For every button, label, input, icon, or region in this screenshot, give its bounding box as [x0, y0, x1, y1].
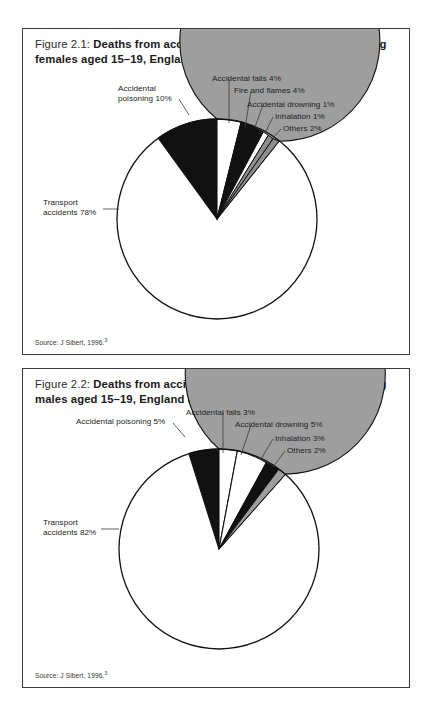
source-text-2-1: Source: J Sibert, 1996. — [35, 339, 104, 346]
source-note-2-1: Source: J Sibert, 1996.3 — [35, 337, 107, 346]
label-accidental-drowning-2-1: Accidental drowning 1% — [247, 100, 334, 110]
label-accidental-drowning-2-2: Accidental drowning 5% — [235, 420, 322, 430]
leader-line-poisoning — [173, 423, 185, 437]
label-fire-and-flames-2-1: Fire and flames 4% — [234, 86, 305, 96]
leader-line-poisoning — [179, 99, 189, 115]
label-transport-accidents-2-1: Transport accidents 78% — [43, 198, 96, 217]
label-inhalation-2-1: Inhalation 1% — [275, 112, 325, 122]
pie-slice-accidental-poisoning — [158, 119, 217, 219]
source-ref-2-2: 3 — [104, 670, 107, 676]
label-transport-accidents-2-2: Transport accidents 82% — [43, 518, 96, 537]
label-others-2-2: Others 2% — [287, 446, 326, 456]
source-text-2-2: Source: J Sibert, 1996. — [35, 672, 104, 679]
figure-panel-2-1: Figure 2.1: Deaths from accidental injur… — [22, 28, 410, 355]
label-accidental-poisoning-2-1: Accidental poisoning 10% — [118, 84, 172, 103]
figure-panel-2-2: Figure 2.2: Deaths from accidental injur… — [22, 368, 410, 688]
source-note-2-2: Source: J Sibert, 1996.3 — [35, 670, 107, 679]
document-page: Figure 2.1: Deaths from accidental injur… — [0, 0, 432, 717]
label-others-2-1: Others 2% — [283, 124, 322, 134]
pie-slice-accidental-poisoning — [189, 449, 219, 549]
label-accidental-falls-2-2: Accidental falls 3% — [186, 408, 255, 418]
label-accidental-poisoning-2-2: Accidental poisoning 5% — [76, 417, 165, 427]
label-inhalation-2-2: Inhalation 3% — [275, 434, 325, 444]
pie-slices-2-1 — [117, 29, 380, 319]
source-ref-2-1: 3 — [104, 337, 107, 343]
label-accidental-falls-2-1: Accidental falls 4% — [212, 74, 281, 84]
